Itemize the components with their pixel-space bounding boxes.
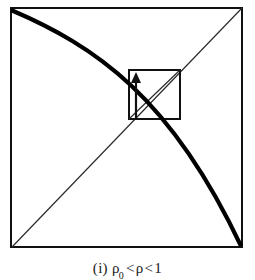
figure-drawing (0, 0, 255, 280)
caption-relation-second: < (145, 260, 154, 276)
caption-rho-zero-subscript: 0 (119, 270, 124, 280)
caption-upper-bound: 1 (154, 260, 162, 276)
figure-caption: (i)ρ0<ρ<1 (0, 258, 255, 280)
figure-container: (i)ρ0<ρ<1 (0, 0, 255, 280)
caption-relation-first: < (126, 260, 135, 276)
caption-rho-symbol: ρ (136, 260, 144, 276)
caption-index: (i) (93, 260, 108, 276)
figure-background (0, 0, 255, 280)
